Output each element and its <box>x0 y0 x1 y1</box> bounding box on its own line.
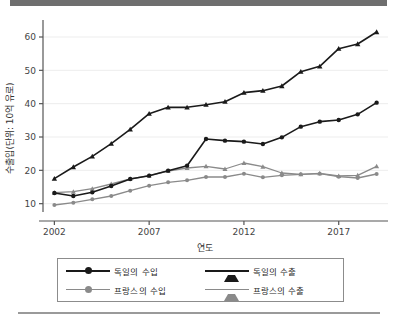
legend-item-france-imports[interactable]: 프랑스의 수입 <box>62 284 201 296</box>
svg-text:30: 30 <box>25 132 37 142</box>
svg-text:2017: 2017 <box>327 227 350 237</box>
legend-label-germany-exports: 독일의 수출 <box>253 265 297 277</box>
x-axis-label: 연도 <box>197 243 213 253</box>
svg-text:10: 10 <box>25 199 37 209</box>
chart-legend: 독일의 수입 독일의 수출 프랑스의 수입 프랑스의 수출 <box>57 258 344 302</box>
legend-swatch-germany-imports <box>66 266 110 276</box>
y-tick-group: 102030405060 <box>25 32 43 209</box>
legend-swatch-germany-exports <box>205 266 249 276</box>
page-bottom-rule <box>18 312 380 314</box>
svg-text:50: 50 <box>25 66 37 76</box>
svg-text:2007: 2007 <box>138 227 161 237</box>
legend-swatch-france-imports <box>66 285 110 295</box>
svg-text:20: 20 <box>25 166 37 176</box>
legend-item-germany-imports[interactable]: 독일의 수입 <box>62 265 201 277</box>
legend-label-france-exports: 프랑스의 수출 <box>253 284 305 296</box>
svg-text:2012: 2012 <box>232 227 255 237</box>
legend-item-france-exports[interactable]: 프랑스의 수출 <box>201 284 340 296</box>
series-group <box>52 29 380 207</box>
svg-text:2002: 2002 <box>43 227 66 237</box>
y-axis-label: 수출입(단위: 10억 유로) <box>4 82 15 173</box>
legend-swatch-france-exports <box>205 285 249 295</box>
legend-label-germany-imports: 독일의 수입 <box>114 265 158 277</box>
svg-text:60: 60 <box>25 32 37 42</box>
legend-label-france-imports: 프랑스의 수입 <box>114 284 166 296</box>
page-top-bar <box>10 0 387 6</box>
x-tick-group: 2002200720122017 <box>43 221 350 237</box>
svg-text:40: 40 <box>25 99 37 109</box>
legend-item-germany-exports[interactable]: 독일의 수출 <box>201 265 340 277</box>
